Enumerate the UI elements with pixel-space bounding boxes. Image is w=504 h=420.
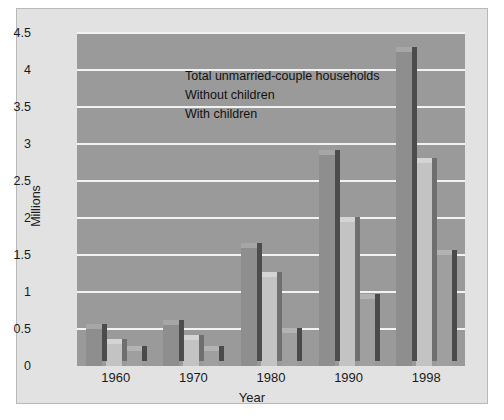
bar-1960-series2	[126, 351, 142, 366]
bar-1998-series2	[436, 255, 452, 366]
bar-1998-series1	[416, 163, 432, 367]
bar-1980-series0	[241, 248, 257, 366]
y-axis-tick-label: 1.5	[0, 248, 31, 262]
y-axis-tick-label: 2.5	[0, 174, 31, 188]
legend-swatch-icon	[161, 110, 176, 119]
legend-label: Without children	[185, 88, 275, 102]
bar-1970-series1	[183, 340, 199, 366]
y-axis-tick-label: 4	[0, 63, 31, 77]
bar-1990-series2	[359, 299, 375, 366]
y-axis-tick-label: 3	[0, 137, 31, 151]
bar-1998-series0	[396, 52, 412, 367]
bar-1990-series1	[339, 222, 355, 366]
y-axis-tick-label: 1	[0, 285, 31, 299]
legend-item: Without children	[161, 86, 380, 104]
legend-swatch-icon	[161, 72, 176, 81]
bar-1960-series1	[106, 344, 122, 366]
x-axis-tick-label: 1960	[71, 370, 161, 385]
bar-1960-series0	[86, 329, 102, 366]
bar-1990-series0	[319, 155, 335, 366]
legend-label: With children	[185, 107, 257, 121]
legend-label: Total unmarried-couple households	[185, 69, 380, 83]
y-axis-tick-label: 4.5	[0, 26, 31, 40]
bar-1970-series0	[163, 325, 179, 366]
bar-1980-series1	[261, 277, 277, 366]
y-axis-tick-label: 3.5	[0, 100, 31, 114]
bar-group	[396, 33, 452, 366]
x-axis-tick-label: 1998	[381, 370, 471, 385]
x-axis-tick-label: 1980	[226, 370, 316, 385]
chart-legend: Total unmarried-couple householdsWithout…	[161, 67, 380, 124]
x-axis-tick-label: 1970	[148, 370, 238, 385]
bar-group	[86, 33, 142, 366]
legend-item: With children	[161, 105, 380, 123]
y-axis-tick-label: 0.5	[0, 322, 31, 336]
legend-swatch-icon	[161, 91, 176, 100]
chart-figure: Millions 00.511.522.533.544.5 Total unma…	[16, 8, 488, 404]
x-axis-label: Year	[17, 390, 487, 405]
bar-1970-series2	[203, 351, 219, 366]
x-axis-tick-label: 1990	[304, 370, 394, 385]
y-axis-tick-label: 2	[0, 211, 31, 225]
legend-item: Total unmarried-couple households	[161, 67, 380, 85]
bar-1980-series2	[281, 333, 297, 366]
y-axis-tick-label: 0	[0, 359, 31, 373]
plot-area: Total unmarried-couple householdsWithout…	[77, 33, 465, 366]
